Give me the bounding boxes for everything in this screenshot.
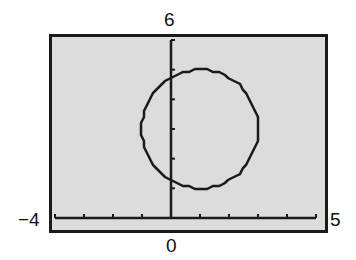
circle-curve	[141, 69, 258, 189]
plot-area	[0, 0, 356, 260]
